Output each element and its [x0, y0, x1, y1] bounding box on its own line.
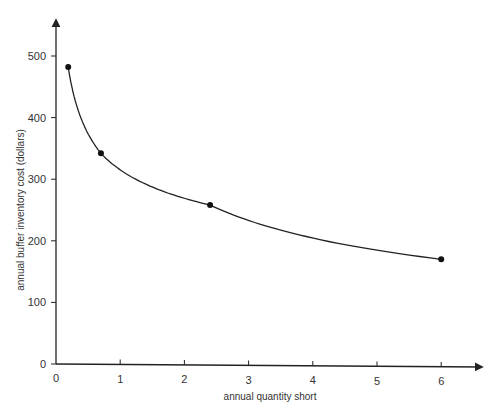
y-tick-label: 200 [28, 235, 46, 247]
data-points [65, 64, 444, 262]
x-tick-label: 4 [310, 374, 316, 386]
y-tick-label: 300 [28, 173, 46, 185]
y-axis-label: annual buffer inventory cost (dollars) [15, 129, 26, 291]
x-tick-label: 3 [246, 374, 252, 386]
data-point [98, 150, 104, 156]
x-tick-label: 2 [181, 373, 187, 385]
y-tick-label: 400 [28, 112, 46, 124]
x-axis-label: annual quantity short [224, 391, 317, 402]
x-axis-ticks: 0123456 [53, 360, 444, 388]
x-tick-label: 6 [438, 375, 444, 387]
data-point [438, 256, 444, 262]
data-point [207, 202, 213, 208]
data-point [65, 64, 71, 70]
y-tick-label: 500 [28, 50, 46, 62]
x-tick-label: 0 [53, 372, 59, 384]
cost-curve [68, 67, 441, 259]
y-tick-label: 100 [28, 296, 46, 308]
chart: 0100200300400500 0123456 annual quantity… [0, 0, 496, 413]
x-tick-label: 1 [117, 373, 123, 385]
x-tick-label: 5 [374, 375, 380, 387]
y-axis-ticks: 0100200300400500 [28, 50, 56, 370]
y-tick-label: 0 [40, 358, 46, 370]
